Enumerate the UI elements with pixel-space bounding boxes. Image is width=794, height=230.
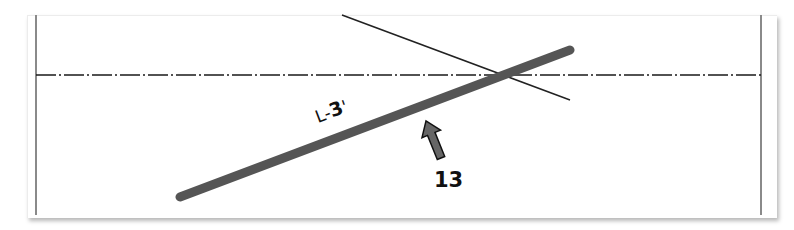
svg-text:L-3': L-3' bbox=[312, 94, 351, 126]
member-label: L-3' bbox=[312, 94, 351, 126]
thin-line bbox=[342, 15, 570, 100]
member-bar bbox=[180, 50, 570, 197]
callout-number: 13 bbox=[434, 168, 463, 192]
arrow-up-left-icon bbox=[417, 117, 451, 162]
diagram-canvas: L-3' 13 bbox=[0, 0, 794, 230]
